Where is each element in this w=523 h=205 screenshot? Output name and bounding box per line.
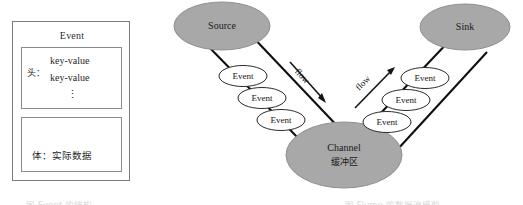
event-ellipse-label: Event: [396, 95, 417, 105]
right-figure-caption: 图 Flume 的数据流模型: [345, 198, 440, 205]
diagram-canvas: Event 头： key-value key-value ⋮ 体：实际数据 So…: [0, 0, 523, 205]
event-ellipse-label: Event: [252, 93, 273, 103]
sink-node[interactable]: Sink: [420, 4, 510, 50]
left-figure-caption: 图 Event 的结构: [26, 198, 92, 205]
event-ellipse-label: Event: [233, 71, 254, 81]
event-ellipse-label: Event: [415, 73, 436, 83]
sink-label: Sink: [456, 21, 474, 32]
event-ellipse-label: Event: [271, 115, 292, 125]
channel-label: Channel: [327, 142, 361, 153]
event-ellipse-label: Event: [377, 117, 398, 127]
right-pipe-events: Event Event Event: [363, 68, 449, 133]
flume-flow-diagram: Source Sink Channel 缓冲区 Event Event Even…: [0, 0, 523, 205]
right-flow-label: flow: [354, 73, 373, 92]
channel-sublabel: 缓冲区: [331, 156, 358, 167]
source-label: Source: [208, 20, 236, 31]
left-pipe-events: Event Event Event: [219, 66, 305, 131]
source-node[interactable]: Source: [174, 2, 270, 50]
